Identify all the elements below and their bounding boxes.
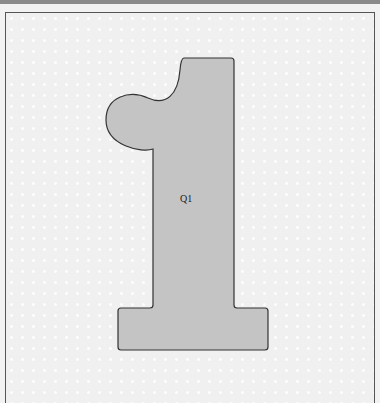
piece-label: Q1: [180, 193, 192, 204]
puzzle-piece-q1[interactable]: [106, 58, 268, 350]
